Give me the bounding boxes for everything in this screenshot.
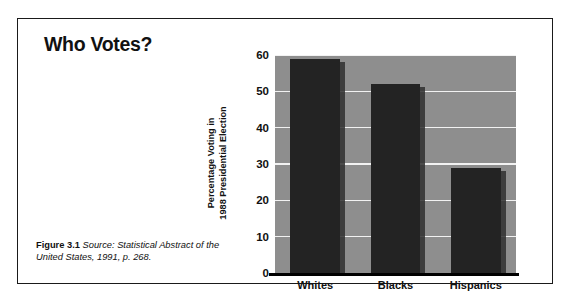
y-axis-tick-label: 20 [256,194,269,206]
y-axis-tick-label: 60 [256,49,269,61]
y-axis-tick-labels: 0102030405060 [243,55,269,273]
figure-caption: Figure 3.1 Source: Statistical Abstract … [36,239,232,264]
y-axis-tick-label: 30 [256,158,269,170]
y-axis-title-line-2: 1988 Presidential Election [218,106,230,219]
gridline [275,55,516,56]
x-axis-tick-label: Whites [297,279,333,291]
y-axis-tick-label: 50 [256,85,269,97]
plot-area [275,55,516,273]
bar-whites [290,59,339,273]
x-axis-tick-labels: WhitesBlacksHispanics [275,279,516,297]
x-axis-tick-label: Blacks [378,279,413,291]
page-title: Who Votes? [44,33,152,56]
bar-hispanics [451,168,500,273]
y-axis-tick-label: 40 [256,122,269,134]
y-axis-tick-label: 10 [256,231,269,243]
x-axis-tick-label: Hispanics [450,279,502,291]
figure-frame: Who Votes? Figure 3.1 Source: Statistica… [17,18,553,284]
y-axis-title: Percentage Voting in 1988 Presidential E… [205,65,231,261]
bar-chart: Percentage Voting in 1988 Presidential E… [223,29,543,279]
bar-blacks [371,84,420,273]
x-axis-line [269,273,519,276]
y-axis-title-line-1: Percentage Voting in [206,118,218,209]
figure-caption-label: Figure 3.1 [36,240,80,250]
